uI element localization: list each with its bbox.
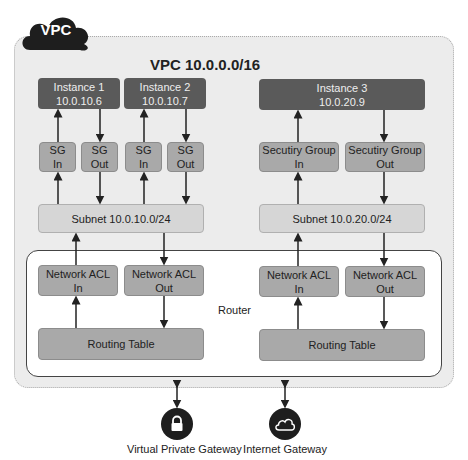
virtual-private-gateway-label: Virtual Private Gateway (127, 443, 227, 455)
cloud-icon (274, 416, 296, 432)
lock-icon (168, 415, 186, 433)
internet-gateway-label: Internet Gateway (240, 443, 330, 455)
virtual-private-gateway[interactable] (161, 408, 193, 440)
connector-arrows (0, 0, 468, 460)
internet-gateway[interactable] (269, 408, 301, 440)
